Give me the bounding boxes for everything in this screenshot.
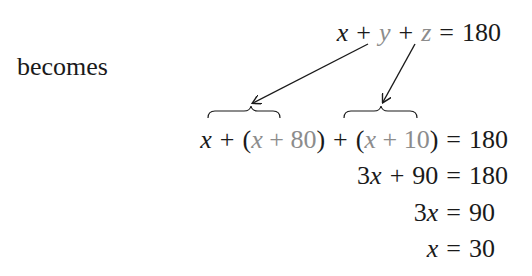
brace-z-icon [344, 106, 417, 118]
arrow-z-icon [383, 44, 415, 102]
brace-y-icon [208, 106, 280, 118]
arrow-y-icon [253, 44, 368, 103]
annotation-overlay [0, 0, 532, 276]
